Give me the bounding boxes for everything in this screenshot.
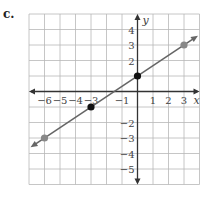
x-tick-label: 3	[181, 95, 187, 106]
x-tick-label: 1	[150, 95, 156, 106]
data-point	[180, 41, 187, 48]
y-axis-arrow-down-icon	[135, 179, 141, 185]
x-axis-arrow-left-icon	[29, 89, 35, 95]
y-tick-label: −4	[120, 149, 135, 160]
coordinate-plane-chart: −6−5−4−3−1123432−2−3−4−5xy	[0, 0, 207, 201]
line-arrow-end-icon	[190, 36, 197, 42]
x-tick-label: 2	[165, 95, 171, 106]
line-arrow-start-icon	[31, 141, 38, 147]
y-tick-label: −5	[120, 164, 135, 175]
x-tick-label: −1	[115, 95, 130, 106]
x-axis-label: x	[193, 94, 200, 107]
x-tick-label: −4	[68, 95, 83, 106]
y-tick-label: −2	[120, 118, 135, 129]
x-tick-label: −5	[53, 95, 68, 106]
y-tick-label: −3	[120, 133, 135, 144]
y-tick-label: 2	[128, 56, 134, 67]
data-point	[134, 72, 141, 79]
data-point	[41, 134, 48, 141]
y-tick-label: 4	[128, 25, 134, 36]
tick-labels: −6−5−4−3−1123432−2−3−4−5xy	[37, 14, 200, 175]
y-tick-label: 3	[128, 40, 134, 51]
y-axis-label: y	[142, 14, 150, 27]
y-axis-arrow-up-icon	[135, 14, 141, 20]
data-point	[87, 103, 94, 110]
x-tick-label: −6	[37, 95, 52, 106]
